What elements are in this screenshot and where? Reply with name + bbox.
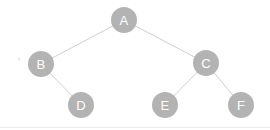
tree-node-label-e: E	[161, 99, 170, 112]
tree-node-label-b: B	[37, 58, 46, 71]
tree-node-b[interactable]: B	[28, 51, 54, 77]
tree-node-f[interactable]: F	[228, 92, 254, 118]
tree-node-d[interactable]: D	[68, 92, 94, 118]
tree-node-label-c: C	[201, 57, 211, 70]
binary-tree-diagram: ABCDEF	[0, 0, 270, 130]
speck-artifact	[18, 58, 20, 60]
bottom-rule-divider	[0, 127, 270, 128]
tree-node-c[interactable]: C	[193, 50, 219, 76]
tree-node-a[interactable]: A	[111, 7, 137, 33]
tree-node-layer: ABCDEF	[0, 0, 270, 130]
tree-node-label-a: A	[120, 14, 129, 27]
tree-node-label-d: D	[76, 99, 86, 112]
tree-node-label-f: F	[237, 99, 245, 112]
tree-node-e[interactable]: E	[152, 92, 178, 118]
